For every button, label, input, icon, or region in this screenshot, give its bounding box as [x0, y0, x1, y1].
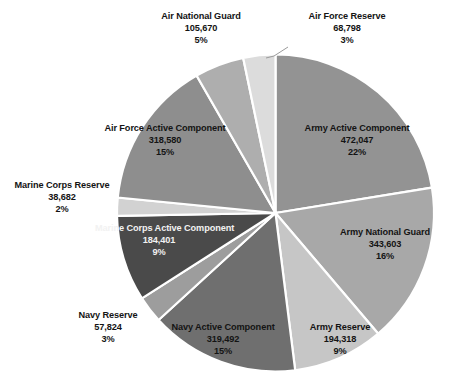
slice-label-name: Army National Guard [325, 227, 445, 239]
slice-label-army-reserve: Army Reserve 194,318 9% [288, 322, 392, 357]
slice-label-name: Air Force Reserve [282, 11, 412, 23]
slice-label-value: 319,492 [155, 334, 291, 346]
pie-chart: Air National Guard 105,670 5% Air Force … [0, 0, 449, 387]
slice-label-value: 318,580 [104, 135, 226, 147]
slice-label-air-force-active-component: Air Force Active Component 318,580 15% [104, 123, 226, 158]
slice-label-value: 57,824 [58, 322, 158, 334]
slice-label-percent: 15% [104, 147, 226, 159]
slice-label-value: 38,682 [2, 192, 122, 204]
slice-label-percent: 16% [325, 251, 445, 263]
slice-label-name: Navy Reserve [58, 310, 158, 322]
slice-label-value: 343,603 [325, 239, 445, 251]
slice-label-army-active-component: Army Active Component 472,047 22% [288, 123, 426, 158]
slice-label-marine-corps-active-component: Marine Corps Active Component 184,401 9% [95, 223, 223, 258]
slice-label-army-national-guard: Army National Guard 343,603 16% [325, 227, 445, 262]
slice-label-percent: 5% [131, 35, 271, 47]
slice-label-percent: 15% [155, 346, 291, 358]
slice-label-percent: 3% [282, 35, 412, 47]
slice-label-name: Army Reserve [288, 322, 392, 334]
slice-label-name: Navy Active Component [155, 322, 291, 334]
slice-label-value: 184,401 [95, 235, 223, 247]
slice-label-name: Marine Corps Reserve [2, 180, 122, 192]
slice-label-percent: 9% [95, 247, 223, 259]
slice-label-value: 68,798 [282, 23, 412, 35]
slice-label-air-force-reserve: Air Force Reserve 68,798 3% [282, 11, 412, 46]
slice-label-navy-reserve: Navy Reserve 57,824 3% [58, 310, 158, 345]
slice-label-marine-corps-reserve: Marine Corps Reserve 38,682 2% [2, 180, 122, 215]
slice-label-name: Air National Guard [131, 11, 271, 23]
slice-label-percent: 3% [58, 334, 158, 346]
slice-label-name: Air Force Active Component [104, 123, 226, 135]
slice-label-name: Marine Corps Active Component [95, 223, 223, 235]
slice-label-value: 472,047 [288, 135, 426, 147]
slice-label-navy-active-component: Navy Active Component 319,492 15% [155, 322, 291, 357]
slice-label-percent: 9% [288, 346, 392, 358]
slice-label-percent: 2% [2, 204, 122, 216]
slice-label-value: 105,670 [131, 23, 271, 35]
slice-label-air-national-guard: Air National Guard 105,670 5% [131, 11, 271, 46]
slice-label-value: 194,318 [288, 334, 392, 346]
slice-label-percent: 22% [288, 147, 426, 159]
slice-label-name: Army Active Component [288, 123, 426, 135]
